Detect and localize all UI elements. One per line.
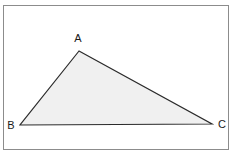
vertex-label-b: B [7, 119, 14, 131]
figure-root: A B C [0, 0, 238, 158]
vertex-label-a: A [74, 32, 82, 44]
triangle-shape [20, 51, 212, 125]
vertex-label-c: C [218, 118, 226, 130]
triangle-diagram: A B C [0, 0, 238, 158]
